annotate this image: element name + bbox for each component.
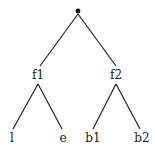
edge-root-f2 xyxy=(78,14,116,66)
edge-f1-e xyxy=(38,84,62,129)
root-node-dot xyxy=(76,9,81,14)
edge-f1-l xyxy=(13,84,38,129)
node-f2: f2 xyxy=(110,68,122,82)
leaf-b1: b1 xyxy=(85,131,100,145)
tree-diagram: f1 f2 l e b1 b2 xyxy=(0,0,155,150)
leaf-l: l xyxy=(10,131,14,145)
edge-root-f1 xyxy=(40,14,78,66)
leaf-e: e xyxy=(59,131,66,145)
node-f1: f1 xyxy=(32,68,44,82)
edge-f2-b2 xyxy=(116,84,140,129)
edge-f2-b1 xyxy=(93,84,116,129)
leaf-b2: b2 xyxy=(134,131,149,145)
